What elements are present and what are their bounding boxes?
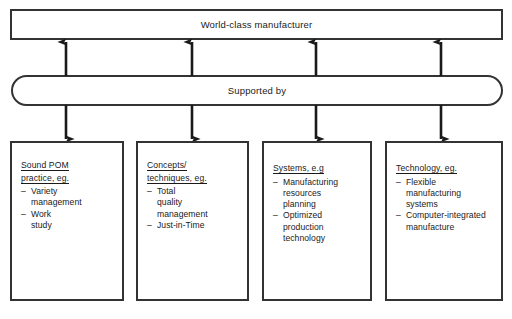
dash-bullet-icon: –: [147, 220, 152, 231]
pillar-heading-line: techniques, eg.: [147, 173, 207, 184]
pillar-box-technology: Technology, eg. –Flexiblemanufacturingsy…: [385, 141, 503, 301]
pillar-heading: Sound POMpractice, eg.: [21, 160, 116, 185]
dash-bullet-icon: –: [21, 209, 26, 220]
dash-bullet-icon: –: [21, 186, 26, 197]
pillar-list-item-label: Manufacturingresourcesplanning: [283, 177, 338, 210]
dash-bullet-icon: –: [273, 177, 278, 188]
pillar-list-item-label: Just-in-Time: [157, 220, 205, 230]
pillar-heading-line: Technology, eg.: [396, 163, 457, 174]
top-box-label: World-class manufacturer: [201, 19, 313, 30]
up-arrows: [66, 42, 441, 76]
pillar-item-list: –Varietymanagement–Workstudy: [21, 186, 116, 231]
pillar-list-item: –Varietymanagement: [21, 186, 116, 209]
pillar-list-item-label: Varietymanagement: [31, 186, 82, 207]
pillar-box-systems: Systems, e.g –Manufacturingresourcesplan…: [262, 141, 372, 301]
pillar-item-list: –Totalqualitymanagement–Just-in-Time: [147, 186, 241, 231]
dash-bullet-icon: –: [273, 210, 278, 221]
pillar-item-list: –Flexiblemanufacturingsystems–Computer-i…: [396, 177, 495, 233]
pillar-list-item: –Optimizedproductiontechnology: [273, 210, 364, 244]
diagram-root: World-class manufacturer Supported by: [0, 0, 512, 319]
pillar-heading-line: practice, eg.: [21, 173, 69, 184]
pillar-list-item-label: Computer-integratedmanufacture: [406, 210, 486, 231]
dash-bullet-icon: –: [396, 177, 401, 188]
connector-box-supported-by: Supported by: [11, 75, 503, 106]
pillar-list-item-label: Optimizedproductiontechnology: [283, 210, 325, 243]
dash-bullet-icon: –: [147, 186, 152, 197]
pillar-list-item-label: Workstudy: [31, 209, 52, 230]
pillar-list-item: –Workstudy: [21, 209, 116, 232]
connector-box-label: Supported by: [228, 85, 286, 96]
pillar-list-item: –Flexiblemanufacturingsystems: [396, 177, 495, 211]
pillar-heading-line: Sound POM: [21, 160, 69, 171]
top-box-world-class-manufacturer: World-class manufacturer: [10, 9, 503, 40]
pillar-heading: Systems, e.g: [273, 163, 364, 176]
dash-bullet-icon: –: [396, 210, 401, 221]
down-arrows: [66, 105, 441, 139]
pillar-box-sound-pom-practice: Sound POMpractice, eg. –Varietymanagemen…: [10, 141, 124, 301]
pillar-heading: Concepts/techniques, eg.: [147, 160, 241, 185]
pillar-heading: Technology, eg.: [396, 163, 495, 176]
pillar-heading-line: Systems, e.g: [273, 163, 324, 174]
pillar-box-concepts-techniques: Concepts/techniques, eg. –Totalqualityma…: [136, 141, 249, 301]
pillar-list-item: –Totalqualitymanagement: [147, 186, 241, 220]
pillar-list-item-label: Totalqualitymanagement: [157, 186, 208, 219]
pillar-heading-line: Concepts/: [147, 160, 187, 171]
pillar-list-item: –Manufacturingresourcesplanning: [273, 177, 364, 211]
pillar-item-list: –Manufacturingresourcesplanning–Optimize…: [273, 177, 364, 245]
pillar-list-item: –Just-in-Time: [147, 220, 241, 231]
pillar-list-item: –Computer-integratedmanufacture: [396, 210, 495, 233]
pillar-list-item-label: Flexiblemanufacturingsystems: [406, 177, 461, 210]
